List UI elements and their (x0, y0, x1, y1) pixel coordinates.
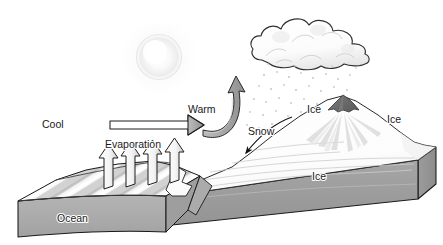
cloud-icon (251, 19, 369, 70)
diagram-canvas: Cool Warm Evaporation Snow Ice Ice Ice O… (0, 0, 443, 245)
label-ocean: Ocean (57, 212, 88, 224)
label-ice-right: Ice (387, 113, 401, 125)
label-cool: Cool (42, 118, 64, 130)
label-warm: Warm (188, 103, 216, 115)
ocean-block (18, 161, 212, 237)
label-snow: Snow (248, 125, 275, 137)
cool-arrow (110, 115, 204, 135)
sun-icon (115, 13, 203, 101)
label-ice-peak: Ice (307, 103, 321, 115)
water-cycle-diagram: Cool Warm Evaporation Snow Ice Ice Ice O… (0, 0, 443, 245)
label-evaporation: Evaporation (105, 138, 161, 150)
label-ice-sheet: Ice (312, 170, 326, 182)
